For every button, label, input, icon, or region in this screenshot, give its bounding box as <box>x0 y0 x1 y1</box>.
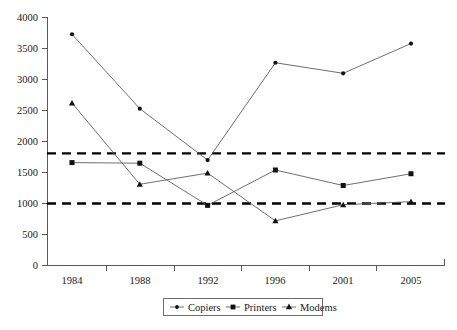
y-tick-label-1500: 1500 <box>17 167 38 178</box>
y-tick-label-0: 0 <box>33 260 38 271</box>
legend-label-modems: Modems <box>300 302 337 313</box>
square-marker-icon <box>341 183 346 188</box>
legend-label-copiers: Copiers <box>188 302 221 313</box>
x-tick-label-1996: 1996 <box>265 275 286 286</box>
dot-marker-icon <box>70 32 74 36</box>
series-printers <box>70 160 414 208</box>
chart-legend[interactable]: Copiers Printers Modems <box>164 299 337 316</box>
square-marker-icon <box>137 161 142 166</box>
chart-canvas: 0 500 1000 1500 2000 2500 3000 3500 4000… <box>0 0 457 330</box>
triangle-marker-icon <box>69 100 75 106</box>
y-axis-labels: 0 500 1000 1500 2000 2500 3000 3500 4000 <box>17 12 38 271</box>
dot-marker-icon <box>206 158 210 162</box>
square-marker-icon <box>273 168 278 173</box>
square-marker-icon <box>205 203 210 208</box>
dot-marker-icon <box>409 41 413 45</box>
x-tick-label-2005: 2005 <box>401 275 422 286</box>
square-marker-icon <box>70 160 75 165</box>
x-tick-label-2001: 2001 <box>333 275 354 286</box>
x-tick-label-1988: 1988 <box>130 275 151 286</box>
square-marker-icon <box>231 305 236 310</box>
y-tick-label-2000: 2000 <box>17 136 38 147</box>
axes <box>48 17 446 266</box>
series-line-copiers <box>72 34 411 160</box>
dot-marker-icon <box>341 71 345 75</box>
triangle-marker-icon <box>205 170 211 176</box>
dot-marker-icon <box>138 107 142 111</box>
square-marker-icon <box>409 171 414 176</box>
dot-marker-icon <box>175 305 179 309</box>
y-tick-label-3000: 3000 <box>17 74 38 85</box>
dot-marker-icon <box>273 61 277 65</box>
legend-label-printers: Printers <box>244 302 277 313</box>
series-modems <box>69 100 414 223</box>
series-copiers <box>70 32 413 162</box>
x-axis-labels: 1984 1988 1992 1996 2001 2005 <box>62 275 422 286</box>
y-tick-label-500: 500 <box>22 229 38 240</box>
x-tick-label-1992: 1992 <box>198 275 219 286</box>
y-tick-label-4000: 4000 <box>17 12 38 23</box>
series-line-printers <box>72 163 411 206</box>
x-tick-label-1984: 1984 <box>62 275 84 286</box>
y-tick-label-1000: 1000 <box>17 198 38 209</box>
y-tick-label-2500: 2500 <box>17 105 38 116</box>
y-tick-label-3500: 3500 <box>17 43 38 54</box>
series-layer <box>69 32 414 223</box>
x-axis-ticks <box>107 266 377 272</box>
y-axis-ticks <box>42 18 48 266</box>
line-chart: 0 500 1000 1500 2000 2500 3000 3500 4000… <box>0 0 457 330</box>
